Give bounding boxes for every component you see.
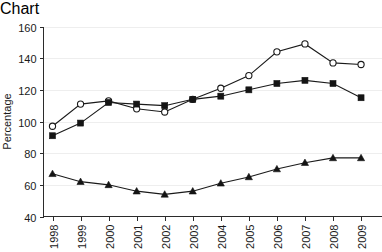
data-point-marker <box>78 120 84 126</box>
data-series-group <box>49 41 365 197</box>
y-axis-tick-label: 60 <box>24 180 36 192</box>
x-axis-tick-label: 2000 <box>104 225 116 249</box>
data-point-marker <box>274 81 280 87</box>
x-axis-tick-label: 2004 <box>216 225 228 249</box>
series-filled-triangle-series <box>49 154 365 197</box>
data-point-marker <box>49 123 55 129</box>
x-axis-tick-label: 2002 <box>160 225 172 249</box>
data-point-marker <box>302 77 308 83</box>
data-point-marker <box>246 72 252 78</box>
data-point-marker <box>218 85 224 91</box>
y-axis-tick-label: 120 <box>18 85 36 97</box>
x-axis-tick-label: 2003 <box>188 225 200 249</box>
y-axis-tick-label: 40 <box>24 212 36 224</box>
data-point-marker <box>302 41 308 47</box>
series-line <box>53 80 362 135</box>
line-chart: 406080100120140160 199819992000200120022… <box>0 18 382 252</box>
y-axis-ticks-group: 406080100120140160 <box>18 22 43 224</box>
data-point-marker <box>162 109 168 115</box>
x-axis-tick-label: 2006 <box>272 225 284 249</box>
x-axis-tick-label: 2001 <box>132 225 144 249</box>
series-line <box>53 158 362 194</box>
y-axis-tick-label: 100 <box>18 117 36 129</box>
data-point-marker <box>218 93 224 99</box>
data-point-marker <box>330 60 336 66</box>
data-point-marker <box>50 133 56 139</box>
x-axis-tick-label: 2009 <box>356 225 368 249</box>
y-axis-tick-label: 160 <box>18 22 36 34</box>
series-filled-square-series <box>50 77 365 138</box>
data-point-marker <box>358 95 364 101</box>
data-point-marker <box>274 49 280 55</box>
x-axis-tick-label: 2008 <box>328 225 340 249</box>
data-point-marker <box>106 100 112 106</box>
series-line <box>53 44 362 126</box>
data-point-marker <box>49 170 56 176</box>
data-point-marker <box>190 96 196 102</box>
y-axis-title: Percentage <box>1 93 13 149</box>
y-axis-title-group: Percentage <box>1 93 13 149</box>
data-point-marker <box>134 101 140 107</box>
y-axis-tick-label: 140 <box>18 53 36 65</box>
gridlines-group <box>44 28 382 186</box>
data-point-marker <box>77 101 83 107</box>
x-axis-tick-label: 1999 <box>76 225 88 249</box>
data-point-marker <box>246 87 252 93</box>
chart-container: 406080100120140160 199819992000200120022… <box>0 18 382 252</box>
x-axis-tick-label: 2007 <box>300 225 312 249</box>
series-open-circle-series <box>49 41 364 130</box>
x-axis-ticks-group: 1998199920002001200220032004200520062007… <box>48 217 368 249</box>
data-point-marker <box>162 103 168 109</box>
axes-group <box>44 27 382 217</box>
y-axis-tick-label: 80 <box>24 148 36 160</box>
x-axis-tick-label: 1998 <box>48 225 60 249</box>
x-axis-tick-label: 2005 <box>244 225 256 249</box>
data-point-marker <box>358 61 364 67</box>
data-point-marker <box>330 81 336 87</box>
